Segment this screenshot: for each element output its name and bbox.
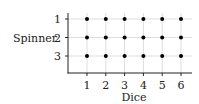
x-tick-label: 6 <box>178 79 185 92</box>
x-axis-label: Dice <box>121 91 146 104</box>
data-point <box>123 17 127 21</box>
data-point <box>160 36 164 40</box>
data-point <box>179 54 183 58</box>
x-tick-label: 2 <box>102 79 109 92</box>
data-point <box>85 54 89 58</box>
y-tick-label: 1 <box>54 13 61 26</box>
axes <box>68 13 193 74</box>
x-tick-label: 5 <box>159 79 166 92</box>
ticks: 123456123 <box>54 13 185 92</box>
data-point <box>85 17 89 21</box>
data-point <box>141 54 145 58</box>
data-point <box>123 36 127 40</box>
x-tick-label: 1 <box>84 79 91 92</box>
data-point <box>141 36 145 40</box>
sample-space-chart: 123456123 Spinner Dice <box>0 0 199 104</box>
data-point <box>160 54 164 58</box>
data-point <box>104 17 108 21</box>
data-point <box>123 54 127 58</box>
data-point <box>141 17 145 21</box>
data-point <box>179 17 183 21</box>
y-tick-label: 3 <box>54 50 61 63</box>
data-point <box>85 36 89 40</box>
data-point <box>104 36 108 40</box>
grid-lines <box>68 13 192 73</box>
data-point <box>104 54 108 58</box>
y-axis-label: Spinner <box>13 32 58 45</box>
data-point <box>160 17 164 21</box>
data-point <box>179 36 183 40</box>
